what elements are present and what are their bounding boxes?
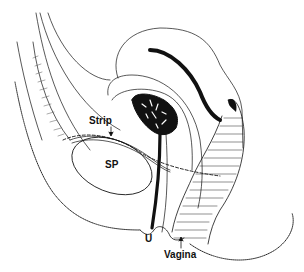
bladder-lumen [132, 94, 178, 135]
skin-outline-bottom [190, 213, 293, 260]
label-vagina: Vagina [164, 250, 196, 260]
strip-arrow-icon [109, 127, 113, 136]
pelvis-section-drawing [0, 0, 304, 272]
strip-dashed-path [63, 135, 220, 176]
uterus-outline [116, 28, 243, 148]
abdominal-wall-lines [17, 13, 120, 150]
vaginal-shading [228, 99, 237, 112]
strip-sling [70, 136, 170, 172]
label-urethra: U [145, 234, 152, 244]
label-symphysis-pubis: SP [105, 160, 118, 170]
bladder-outline [108, 75, 202, 208]
anatomical-diagram: Strip SP U Vagina [0, 0, 304, 272]
vaginal-hatching [174, 118, 243, 238]
urethra [152, 134, 160, 228]
vaginal-wall-outer [208, 99, 244, 244]
label-strip: Strip [89, 116, 112, 126]
urethra-wall [162, 134, 167, 232]
skin-outline-left [15, 82, 140, 230]
